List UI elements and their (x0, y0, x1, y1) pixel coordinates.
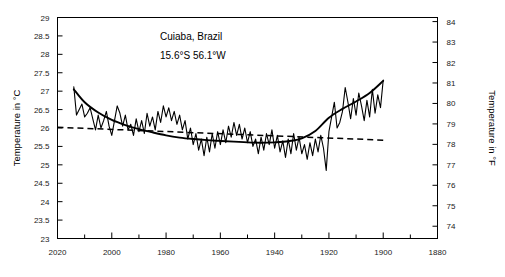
y-axis-left-tick-label: 24.5 (34, 179, 50, 188)
y-axis-left-tick-label: 25 (41, 161, 50, 170)
y-axis-left-tick-label: 26 (41, 124, 50, 133)
y-axis-right-tick-label: 75 (447, 202, 456, 211)
y-axis-left-tick-label: 26.5 (34, 106, 50, 115)
y-axis-right-tick-label: 78 (447, 140, 456, 149)
x-axis-tick-label: 1980 (157, 248, 175, 257)
temperature-chart: 20202000198019601940192019001880 2928.52… (0, 0, 505, 277)
y-axis-left-tick-label: 28 (41, 50, 50, 59)
x-axis-tick-label: 1960 (211, 248, 229, 257)
y-axis-left-tick-label: 27 (41, 87, 50, 96)
y-axis-right-title: Temperature in °F (487, 90, 498, 166)
y-axis-right-tick-label: 79 (447, 120, 456, 129)
chart-canvas: 20202000198019601940192019001880 2928.52… (0, 0, 505, 277)
chart-title-station: Cuiaba, Brazil (160, 31, 222, 42)
y-axis-right-tick-label: 83 (447, 38, 456, 47)
x-axis-tick-label: 1880 (429, 248, 447, 257)
y-axis-right-tick-label: 81 (447, 79, 456, 88)
chart-background (0, 0, 505, 277)
y-axis-left-tick-label: 28.5 (34, 32, 50, 41)
x-axis-tick-label: 1900 (374, 248, 392, 257)
y-axis-right-tick-label: 77 (447, 161, 456, 170)
y-axis-left-tick-label: 25.5 (34, 142, 50, 151)
x-axis-tick-label: 1940 (266, 248, 284, 257)
y-axis-right-tick-label: 76 (447, 181, 456, 190)
y-axis-right-tick-label: 82 (447, 59, 456, 68)
x-axis-tick-label: 1920 (320, 248, 338, 257)
x-axis-tick-label: 2000 (103, 248, 121, 257)
y-axis-right-tick-label: 84 (447, 18, 456, 27)
y-axis-left-tick-label: 23.5 (34, 216, 50, 225)
x-axis-tick-label: 2020 (49, 248, 67, 257)
y-axis-left-tick-label: 23 (41, 235, 50, 244)
y-axis-left-tick-label: 29 (41, 14, 50, 23)
y-axis-right-tick-label: 80 (447, 99, 456, 108)
y-axis-right-tick-label: 74 (447, 222, 456, 231)
y-axis-left-tick-label: 24 (41, 198, 50, 207)
y-axis-left-tick-label: 27.5 (34, 69, 50, 78)
chart-subtitle-coordinates: 15.6°S 56.1°W (160, 50, 226, 61)
y-axis-left-title: Temperature in °C (11, 90, 22, 167)
